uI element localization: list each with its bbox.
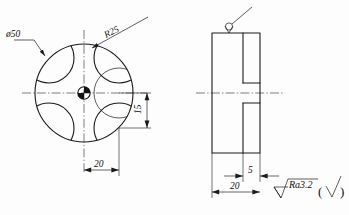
surface-finish-symbol-top: [225, 7, 252, 33]
surface-symbol-leader: [232, 7, 252, 24]
circle-icon: [225, 23, 232, 30]
dimension-value-5: 5: [248, 165, 253, 175]
dimension-20-side-group: [212, 153, 260, 198]
side-view-group: 5 20: [196, 7, 285, 198]
drawing-svg: ø50 R25 15 20: [0, 0, 349, 215]
front-view-group: ø50 R25 15 20: [5, 17, 151, 176]
dimension-value-20-side: 20: [230, 181, 240, 191]
roughness-triangle-left: [274, 187, 281, 198]
general-roughness-note: Ra3.2 ( ): [274, 176, 344, 199]
dimension-value-15: 15: [133, 104, 143, 114]
slot-lower: [243, 103, 260, 153]
leader-d50-slant: [34, 40, 45, 56]
technical-drawing-canvas: ø50 R25 15 20: [0, 0, 349, 215]
paren-open-label: (: [318, 184, 322, 199]
slot-upper: [243, 33, 260, 83]
hub-quadrant-ne: [84, 87, 90, 93]
roughness-value-label: Ra3.2: [288, 179, 313, 190]
checkmark-icon: [225, 26, 233, 33]
center-hub: [78, 87, 90, 99]
paren-checkmark-icon: [326, 176, 341, 197]
label-diameter-50: ø50: [5, 29, 21, 39]
hub-quadrant-sw: [78, 93, 84, 99]
leader-d50: [14, 40, 45, 56]
paren-close-label: ): [340, 184, 344, 199]
roughness-checkmark-icon: [274, 179, 288, 198]
dimension-value-20-front: 20: [94, 159, 104, 169]
